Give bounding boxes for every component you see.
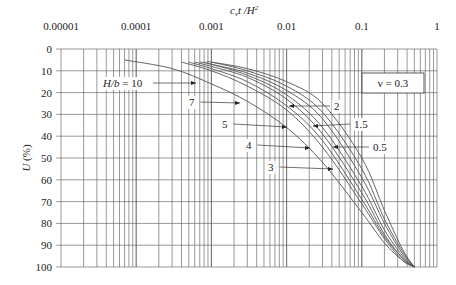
y-tick-label: 40 [41, 130, 53, 142]
curve-labels: H/b = 10754321.50.5 [101, 77, 392, 174]
x-tick-label: 0.0001 [121, 20, 151, 32]
x-axis-tick-labels: 0.000010.00010.0010.010.11 [43, 20, 440, 32]
curve-label: 0.5 [373, 141, 387, 153]
y-tick-label: 30 [41, 108, 53, 120]
curve-label: H/b = 10 [102, 77, 143, 89]
y-tick-label: 20 [41, 87, 53, 99]
curve-label: 4 [246, 139, 252, 151]
x-tick-label: 1 [434, 20, 440, 32]
y-tick-label: 50 [41, 152, 53, 164]
x-tick-label: 0.01 [277, 20, 296, 32]
y-axis-tick-labels: 0102030405060708090100 [36, 43, 53, 273]
y-tick-label: 10 [41, 65, 53, 77]
y-tick-label: 100 [36, 261, 53, 273]
y-tick-label: 80 [41, 217, 53, 229]
nu-annotation-box: ν = 0.3 [362, 73, 424, 93]
nu-annotation-text: ν = 0.3 [378, 77, 409, 89]
x-tick-label: 0.00001 [43, 20, 79, 32]
x-tick-label: 0.001 [199, 20, 224, 32]
y-tick-label: 0 [47, 43, 53, 55]
y-tick-label: 70 [41, 196, 53, 208]
curve-label: 7 [189, 96, 195, 108]
curve-label: 2 [334, 100, 340, 112]
y-tick-label: 90 [41, 239, 53, 251]
y-axis-title: U (%) [20, 144, 33, 172]
consolidation-chart: 0.000010.00010.0010.010.11 0102030405060… [0, 0, 456, 285]
y-tick-label: 60 [41, 174, 53, 186]
x-axis-title: cvt /H2 [230, 4, 259, 18]
curve-label: 5 [222, 118, 228, 130]
curve-label: 3 [268, 161, 274, 173]
curve-label: 1.5 [354, 118, 368, 130]
x-tick-label: 0.1 [355, 20, 369, 32]
